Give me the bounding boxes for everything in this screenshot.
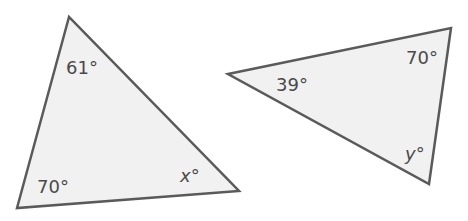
- angle-label-y: y°: [405, 145, 425, 163]
- angle-label-x: x°: [180, 167, 200, 185]
- angle-label-39: 39°: [276, 76, 308, 94]
- triangles-diagram: [0, 0, 468, 221]
- angle-label-61: 61°: [66, 59, 98, 77]
- angle-label-70-right: 70°: [406, 49, 438, 67]
- angle-label-70-left: 70°: [37, 178, 69, 196]
